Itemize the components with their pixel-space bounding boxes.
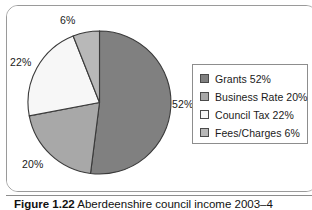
pie-label-council-tax: 22% bbox=[10, 56, 31, 68]
pie-label-fees-charges: 6% bbox=[60, 14, 75, 26]
pie-chart-svg bbox=[27, 30, 172, 175]
chart-legend: Grants 52% Business Rate 20% Council Tax… bbox=[192, 64, 308, 144]
figure-caption-text: Aberdeenshire council income 2003–4 bbox=[77, 198, 273, 210]
pie-label-business-rate: 20% bbox=[22, 158, 43, 170]
legend-swatch-business-rate bbox=[200, 92, 209, 101]
pie-label-grants: 52% bbox=[172, 98, 193, 110]
pie-chart bbox=[27, 30, 172, 175]
legend-label-fees-charges: Fees/Charges 6% bbox=[215, 127, 300, 139]
legend-item-fees-charges: Fees/Charges 6% bbox=[200, 124, 307, 141]
pie-slice-grants bbox=[91, 31, 171, 174]
caption-divider bbox=[6, 195, 312, 196]
figure-caption-number: Figure 1.22 bbox=[14, 198, 75, 210]
legend-label-grants: Grants 52% bbox=[215, 73, 271, 85]
legend-item-grants: Grants 52% bbox=[200, 70, 307, 87]
legend-label-business-rate: Business Rate 20% bbox=[215, 91, 307, 103]
figure-caption: Figure 1.22 Aberdeenshire council income… bbox=[14, 198, 310, 210]
legend-swatch-council-tax bbox=[200, 110, 209, 119]
legend-label-council-tax: Council Tax 22% bbox=[215, 109, 294, 121]
legend-item-council-tax: Council Tax 22% bbox=[200, 106, 307, 123]
legend-item-business-rate: Business Rate 20% bbox=[200, 88, 307, 105]
legend-swatch-grants bbox=[200, 74, 209, 83]
figure-container: 6% 22% 20% 52% Grants 52% Business Rate … bbox=[0, 0, 312, 210]
legend-swatch-fees-charges bbox=[200, 128, 209, 137]
